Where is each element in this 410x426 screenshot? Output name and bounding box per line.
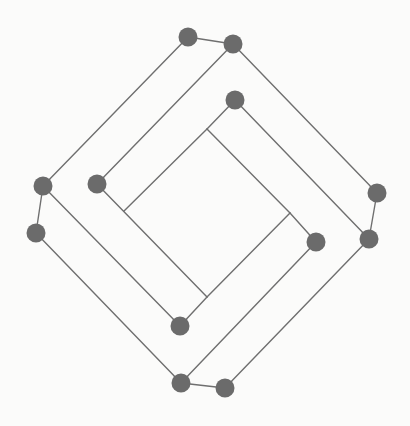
node-I	[360, 230, 379, 249]
node-B	[224, 35, 243, 54]
node-C	[226, 91, 245, 110]
node-H	[307, 233, 326, 252]
node-A	[179, 28, 198, 47]
node-D	[34, 177, 53, 196]
node-K	[172, 374, 191, 393]
node-F	[368, 184, 387, 203]
background	[0, 0, 410, 426]
node-L	[216, 379, 235, 398]
node-G	[27, 224, 46, 243]
node-E	[88, 175, 107, 194]
node-J	[171, 317, 190, 336]
graph-diagram	[0, 0, 410, 426]
